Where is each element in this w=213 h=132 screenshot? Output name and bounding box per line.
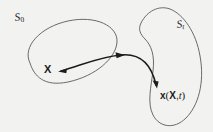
reference-region-label: S0	[14, 11, 25, 25]
reference-region-outline	[28, 19, 117, 83]
motion-arrow-head-left	[58, 69, 67, 74]
spatial-point-label: x(X,t)	[160, 90, 185, 102]
current-region-label: St	[176, 18, 185, 31]
spatial-point-arg-material: X	[169, 90, 176, 101]
motion-arrow-head-mid	[116, 52, 126, 58]
motion-arrow-head-end	[153, 81, 159, 89]
spatial-point-close-paren: )	[182, 89, 186, 101]
material-point-label: X	[44, 64, 51, 75]
motion-diagram-figure: S0 St X x(X,t)	[0, 0, 213, 132]
current-region-label-subscript: t	[182, 22, 185, 31]
